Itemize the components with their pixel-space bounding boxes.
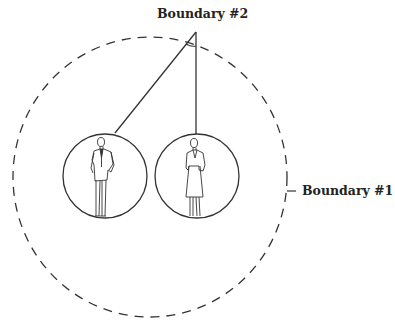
woman-figure-icon xyxy=(186,139,205,217)
boundary-2-label: Boundary #2 xyxy=(157,6,248,21)
woman-circle xyxy=(155,134,239,218)
boundary-1-label: Boundary #1 xyxy=(302,183,393,198)
apex-angle-arc xyxy=(186,44,196,46)
apex-line-left xyxy=(115,32,196,133)
man-figure-icon xyxy=(91,138,114,217)
man-figure-group xyxy=(63,134,147,218)
outer-boundary-circle xyxy=(13,37,287,317)
boundary-diagram: Boundary #2 Boundary #1 xyxy=(0,0,395,332)
woman-figure-group xyxy=(155,134,239,218)
